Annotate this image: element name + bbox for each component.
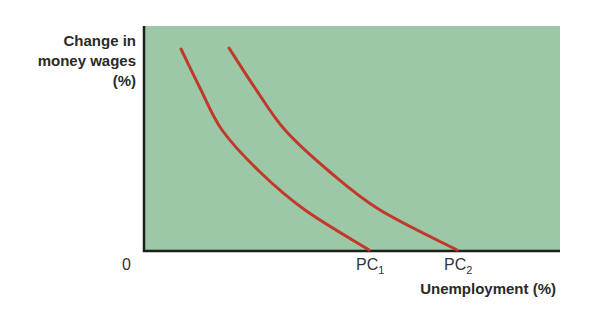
pc2-label: PC2 <box>444 256 472 276</box>
pc1-label: PC1 <box>356 256 384 276</box>
pc1-label-sub: 1 <box>378 264 384 276</box>
chart-plot <box>0 0 596 309</box>
plot-background <box>144 26 560 251</box>
origin-label: 0 <box>122 256 131 274</box>
pc2-label-base: PC <box>444 256 466 273</box>
pc2-label-sub: 2 <box>466 264 472 276</box>
x-axis-label: Unemployment (%) <box>420 280 556 297</box>
pc1-label-base: PC <box>356 256 378 273</box>
